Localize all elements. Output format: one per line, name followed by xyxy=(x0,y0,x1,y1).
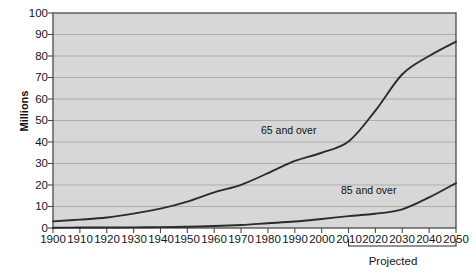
projected-bracket-label: Projected xyxy=(333,255,453,267)
y-axis-tick-label: 80 xyxy=(20,51,48,62)
population-age-line-chart: Millions 100 90 80 70 60 50 40 30 20 10 … xyxy=(0,0,476,274)
y-axis-tick-label: 10 xyxy=(20,201,48,212)
y-axis-tick-label: 70 xyxy=(20,72,48,83)
y-axis-tick-label: 30 xyxy=(20,158,48,169)
y-axis-tick-label: 90 xyxy=(20,29,48,40)
y-axis-ticks xyxy=(48,13,53,228)
series-label-65-and-over: 65 and over xyxy=(261,124,316,136)
y-axis-tick-label: 40 xyxy=(20,137,48,148)
y-axis-tick-label: 100 xyxy=(20,8,48,19)
x-axis-tick-label: 2050 xyxy=(439,233,473,245)
y-axis-tick-label: 20 xyxy=(20,180,48,191)
series-label-85-and-over: 85 and over xyxy=(341,184,396,196)
y-axis-tick-label: 60 xyxy=(20,94,48,105)
y-axis-tick-label: 50 xyxy=(20,115,48,126)
